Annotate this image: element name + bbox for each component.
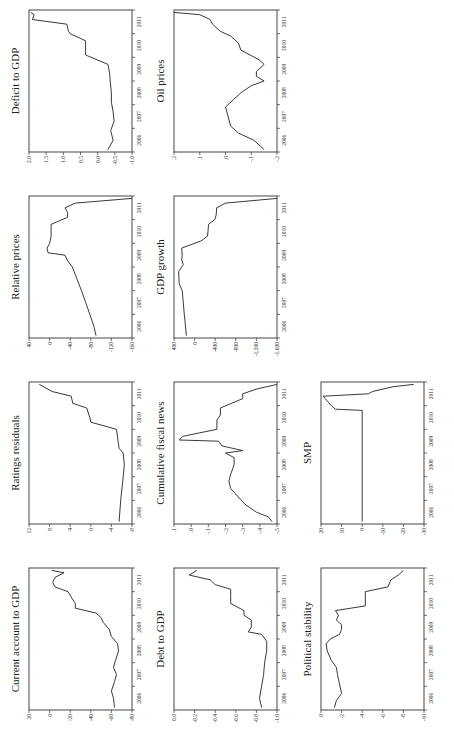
- y-tick-label: -10: [421, 714, 427, 722]
- x-tick-label: 2010: [281, 226, 287, 237]
- x-tick-label: 2007: [428, 483, 434, 494]
- y-tick-label: -.3: [240, 528, 246, 534]
- y-tick-label: 12: [26, 528, 32, 534]
- plot-frame: [29, 196, 132, 338]
- y-tick-label: -1,600: [274, 342, 280, 356]
- y-tick-label: 0: [47, 342, 53, 345]
- data-line: [179, 198, 277, 335]
- y-tick-label: -400: [212, 342, 218, 352]
- x-tick-label: 2007: [136, 669, 142, 680]
- x-tick-label: 2007: [281, 483, 287, 494]
- chart-title: Relative prices: [9, 234, 21, 300]
- chart-title: Cumulative fiscal news: [154, 401, 166, 504]
- x-tick-label: 2011: [281, 16, 287, 27]
- y-tick-label: 20: [318, 528, 324, 534]
- y-tick-label: 0: [359, 528, 365, 531]
- y-tick-label: 40: [26, 342, 32, 348]
- y-tick-label: 0: [47, 714, 53, 717]
- x-tick-label: 2006: [136, 692, 142, 703]
- y-tick-label: 0.5: [78, 156, 84, 163]
- y-tick-label: 0.0: [171, 714, 177, 721]
- y-tick-label: -80: [129, 714, 135, 722]
- plot-frame: [174, 10, 277, 152]
- data-line: [31, 12, 114, 149]
- x-tick-label: 2008: [136, 87, 142, 98]
- x-tick-label: 2011: [281, 574, 287, 585]
- y-tick-label: -2: [339, 714, 345, 719]
- chart-panel-smp: SMP20100-10-20-3020062007200820092010201…: [301, 382, 434, 535]
- y-tick-label: -20: [400, 528, 406, 536]
- x-tick-label: 2006: [281, 692, 287, 703]
- y-tick-label: -800: [233, 342, 239, 352]
- chart-title: Debt to GDP: [154, 610, 166, 667]
- y-tick-label: 0: [192, 342, 198, 345]
- y-tick-label: -1.0: [274, 714, 280, 723]
- y-tick-label: .1: [197, 156, 203, 160]
- x-tick-label: 2010: [136, 40, 142, 51]
- x-tick-label: 2010: [428, 412, 434, 423]
- chart-panel-deficit-to-gdp: Deficit to GDP2.01.51.00.50.0-0.5-1.0200…: [9, 10, 142, 165]
- x-tick-label: 2007: [281, 111, 287, 122]
- plot-frame: [29, 382, 132, 524]
- chart-title: Ratings residuals: [9, 415, 21, 490]
- x-tick-label: 2009: [136, 435, 142, 446]
- x-tick-label: 2007: [281, 669, 287, 680]
- y-tick-label: 2.0: [26, 156, 32, 163]
- y-tick-label: -0.8: [253, 714, 259, 723]
- x-tick-label: 2010: [136, 412, 142, 423]
- y-tick-label: -0.6: [233, 714, 239, 723]
- x-tick-label: 2007: [136, 297, 142, 308]
- y-tick-label: -0.2: [192, 714, 198, 723]
- x-tick-label: 2008: [136, 645, 142, 656]
- x-tick-label: 2006: [281, 506, 287, 517]
- x-tick-label: 2007: [281, 297, 287, 308]
- x-tick-label: 2010: [281, 598, 287, 609]
- x-tick-label: 2008: [281, 645, 287, 656]
- y-tick-label: .0: [223, 156, 229, 160]
- x-tick-label: 2006: [428, 692, 434, 703]
- x-tick-label: 2009: [136, 621, 142, 632]
- x-tick-label: 2008: [281, 273, 287, 284]
- plot-frame: [321, 568, 424, 710]
- x-tick-label: 2008: [428, 459, 434, 470]
- x-tick-label: 2008: [281, 459, 287, 470]
- chart-panel-gdp-growth: GDP growth4000-400-800-1,200-1,600200620…: [154, 196, 287, 356]
- y-tick-label: 1.0: [60, 156, 66, 163]
- y-tick-label: -.4: [257, 528, 263, 534]
- chart-title: Oil prices: [154, 59, 166, 102]
- plot-frame: [174, 196, 277, 338]
- chart-panel-relative-prices: Relative prices400-40-80-120-16020062007…: [9, 196, 142, 352]
- data-line: [189, 570, 266, 707]
- x-tick-label: 2008: [428, 645, 434, 656]
- y-tick-label: -40: [67, 342, 73, 350]
- x-tick-label: 2009: [281, 435, 287, 446]
- y-tick-label: .1: [171, 528, 177, 532]
- y-tick-label: -20: [67, 714, 73, 722]
- x-tick-label: 2006: [281, 134, 287, 145]
- chart-title: SMP: [301, 442, 313, 464]
- plot-frame: [321, 382, 424, 524]
- x-tick-label: 2011: [281, 202, 287, 213]
- data-line: [47, 198, 132, 335]
- y-tick-label: -8: [400, 714, 406, 719]
- x-tick-label: 2010: [281, 40, 287, 51]
- x-tick-label: 2009: [428, 435, 434, 446]
- y-tick-label: .0: [188, 528, 194, 532]
- y-tick-label: -0.4: [212, 714, 218, 723]
- y-tick-label: -6: [380, 714, 386, 719]
- chart-title: GDP growth: [154, 239, 166, 295]
- y-tick-label: -.5: [274, 528, 280, 534]
- y-tick-label: -.2: [274, 156, 280, 162]
- data-line: [39, 384, 124, 521]
- chart-title: Political stability: [301, 601, 313, 676]
- data-line: [326, 570, 403, 707]
- chart-panel-ratings-residuals: Ratings residuals12840-4-820062007200820…: [9, 382, 142, 534]
- y-tick-label: 0: [88, 528, 94, 531]
- y-tick-label: -40: [88, 714, 94, 722]
- y-tick-label: 0: [318, 714, 324, 717]
- y-tick-label: -.2: [223, 528, 229, 534]
- y-tick-label: -4: [108, 528, 114, 533]
- y-tick-label: -10: [380, 528, 386, 536]
- x-tick-label: 2007: [428, 669, 434, 680]
- x-tick-label: 2010: [136, 226, 142, 237]
